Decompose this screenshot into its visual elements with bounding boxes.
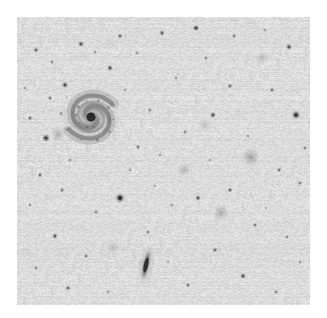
star-core [209, 159, 211, 161]
star-core [278, 169, 280, 171]
star-core [286, 236, 288, 238]
star-core [159, 154, 161, 156]
fuzzy-galaxy-b [213, 205, 229, 221]
star-core [299, 182, 301, 184]
star-core [39, 174, 41, 176]
star-core [136, 52, 138, 54]
star-core [304, 147, 306, 149]
edge-on-galaxy [133, 243, 159, 288]
star-core [187, 284, 189, 286]
fuzzy-galaxy-g [199, 119, 211, 131]
star-core [205, 57, 207, 59]
fuzzy-galaxy-layer [50, 52, 268, 254]
star-core [212, 114, 215, 117]
star-core [49, 97, 51, 99]
star-layer [23, 25, 307, 295]
star-core [288, 46, 291, 49]
spiral-galaxy [53, 81, 129, 152]
star-core [171, 204, 173, 206]
star-core [24, 87, 26, 89]
star-core [109, 67, 112, 70]
star-core [175, 77, 177, 79]
star-core [95, 211, 97, 213]
celestial-objects-layer [17, 17, 310, 305]
star-core [118, 196, 122, 200]
star-core [265, 207, 267, 209]
star-core [214, 249, 216, 251]
star-core [264, 29, 266, 31]
star-core [184, 131, 186, 133]
star-core [119, 35, 121, 37]
star-core [80, 43, 83, 46]
star-core [85, 255, 87, 257]
sky-image-frame [17, 17, 310, 305]
star-core [51, 61, 53, 63]
fuzzy-galaxy-d [50, 126, 65, 141]
fuzzy-galaxy-f [107, 241, 119, 253]
star-core [254, 224, 256, 226]
star-core [149, 109, 151, 111]
star-core [29, 117, 31, 119]
star-core [167, 261, 169, 263]
star-core [229, 189, 231, 191]
star-core [154, 185, 156, 187]
fuzzy-galaxy-e [256, 52, 269, 65]
star-core [147, 231, 149, 233]
star-core [67, 287, 69, 289]
star-core [64, 84, 67, 87]
star-core [161, 32, 163, 34]
star-core [233, 35, 235, 37]
star-core [275, 291, 277, 293]
star-core [137, 146, 139, 148]
star-core [271, 89, 273, 91]
star-core [61, 189, 63, 191]
fuzzy-galaxy-a [242, 148, 260, 166]
star-core [69, 159, 71, 161]
star-core [242, 275, 245, 278]
star-core [44, 136, 47, 139]
star-core [35, 49, 37, 51]
star-core [107, 291, 109, 293]
star-core [299, 261, 301, 263]
star-core [94, 51, 96, 53]
star-core [124, 89, 126, 91]
star-core [129, 169, 131, 171]
fuzzy-galaxy-c [177, 163, 191, 177]
star-core [229, 85, 231, 87]
star-core [29, 204, 31, 206]
astronomy-image-page [0, 0, 327, 318]
star-core [247, 135, 249, 137]
star-core [35, 267, 37, 269]
star-core [294, 113, 298, 117]
star-core [54, 235, 56, 237]
star-core [197, 197, 199, 199]
star-core [195, 27, 198, 30]
